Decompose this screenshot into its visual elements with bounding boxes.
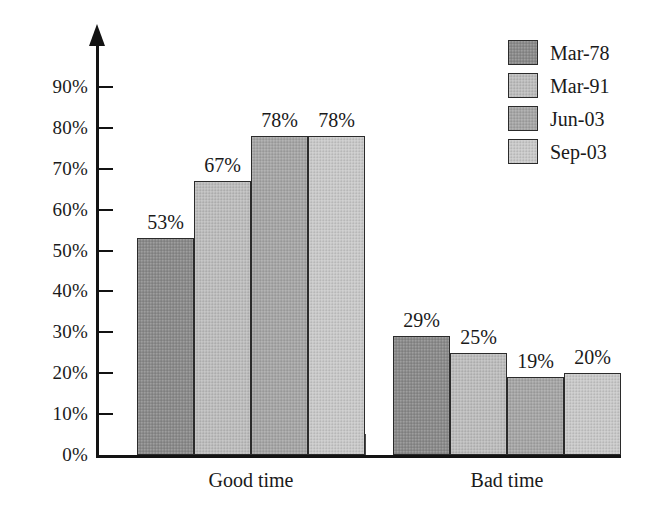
bar-value-label: 78% [296,110,377,130]
y-axis-tick [99,250,113,252]
legend-item: Mar-78 [508,36,610,69]
y-axis-tick [99,290,113,292]
y-axis-tick-label: 10% [24,404,88,423]
y-axis-tick-label-text: 10% [34,404,88,423]
legend-swatch [508,139,538,164]
legend-label: Sep-03 [550,142,607,162]
x-axis-category-label: Good time [161,470,341,490]
bar-texture [195,182,250,454]
legend-label: Jun-03 [550,109,604,129]
bar-texture [508,378,563,454]
legend-swatch-texture [509,140,537,163]
y-axis-tick-label-text: 0% [34,445,88,464]
bar [507,377,564,455]
y-axis-tick-label: 40% [24,281,88,300]
y-axis-tick [99,331,113,333]
legend-swatch-texture [509,41,537,64]
x-axis-category-label: Bad time [417,470,597,490]
y-axis-tick [99,127,113,129]
bar [564,373,621,455]
y-axis-tick-label-text: 40% [34,281,88,300]
y-axis-tick-label: 90% [24,77,88,96]
y-axis-tick [99,372,113,374]
bar [137,238,194,455]
x-axis-line [96,455,621,458]
bar-texture [252,137,307,454]
y-axis-tick-label-text: 70% [34,159,88,178]
bar-texture [394,337,449,454]
legend-swatch [508,40,538,65]
y-axis-tick-label: 50% [24,241,88,260]
y-axis-tick-label-text: 60% [34,200,88,219]
bar-texture [565,374,620,454]
y-axis-tick-label: 0% [24,445,88,464]
bar-texture [138,239,193,454]
bar [393,336,450,455]
legend: Mar-78Mar-91Jun-03Sep-03 [508,36,610,168]
legend-item: Jun-03 [508,102,610,135]
bar-texture [309,137,364,454]
y-axis-tick-label-text: 30% [34,322,88,341]
legend-label: Mar-78 [550,43,610,63]
bar-chart: 90%80%70%60%50%40%30%20%10%0% 53%67%78%7… [0,0,655,513]
legend-swatch-texture [509,107,537,130]
bar [308,136,365,455]
y-axis-tick-label: 20% [24,363,88,382]
y-axis-line [96,40,99,457]
y-axis-arrow-icon [89,24,105,46]
y-axis-tick-label: 80% [24,118,88,137]
legend-item: Mar-91 [508,69,610,102]
y-axis-tick [99,413,113,415]
y-axis-tick-label-text: 50% [34,241,88,260]
legend-item: Sep-03 [508,135,610,168]
y-axis-tick-label: 30% [24,322,88,341]
y-axis-tick-label-text: 90% [34,77,88,96]
y-axis-tick-label-text: 20% [34,363,88,382]
legend-swatch [508,73,538,98]
bar [194,181,251,455]
bar-value-label: 20% [552,347,633,367]
y-axis-tick [99,209,113,211]
y-axis-tick [99,86,113,88]
y-axis-tick-label: 60% [24,200,88,219]
legend-swatch-texture [509,74,537,97]
bar-value-label: 25% [438,327,519,347]
y-axis-tick-label: 70% [24,159,88,178]
legend-label: Mar-91 [550,76,610,96]
y-axis-tick-label-text: 80% [34,118,88,137]
bar [251,136,308,455]
legend-swatch [508,106,538,131]
y-axis-tick [99,168,113,170]
